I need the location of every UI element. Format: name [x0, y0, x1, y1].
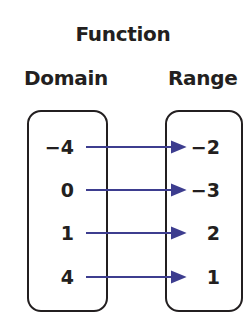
domain-value: −4: [34, 137, 74, 157]
range-value: −3: [180, 180, 220, 200]
range-value: 2: [180, 223, 220, 243]
domain-value: 0: [34, 180, 74, 200]
range-value: 1: [180, 267, 220, 287]
domain-value: 1: [34, 223, 74, 243]
range-value: −2: [180, 137, 220, 157]
domain-value: 4: [34, 267, 74, 287]
